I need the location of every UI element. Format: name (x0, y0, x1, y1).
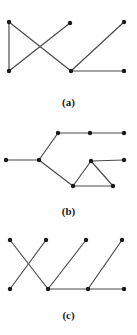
graph-vertex (122, 20, 126, 24)
graph-panel-b: (b) (0, 110, 137, 225)
graph-edge (71, 22, 124, 71)
graph-vertex (7, 69, 11, 73)
graph-vertex (122, 287, 126, 291)
graph-edge (88, 240, 122, 289)
panel-label-a: (a) (0, 96, 137, 108)
graph-vertex (122, 131, 126, 135)
graph-edge (91, 160, 124, 161)
graph-vertex (86, 287, 90, 291)
graph-drawing-c (0, 225, 137, 309)
graph-edge (39, 133, 58, 160)
graph-vertex (69, 69, 73, 73)
graph-vertex (111, 184, 115, 188)
graph-edge (9, 23, 70, 71)
graph-edge (48, 240, 86, 289)
graph-edge (39, 160, 73, 186)
graph-vertex (8, 287, 12, 291)
graph-edge (73, 161, 91, 186)
graph-vertex (8, 238, 12, 242)
panel-label-c: (c) (0, 309, 137, 321)
graph-vertex (68, 21, 72, 25)
graph-panel-a: (a) (0, 0, 137, 115)
graph-vertex (7, 20, 11, 24)
panel-label-b: (b) (0, 205, 137, 217)
graph-vertex (89, 159, 93, 163)
figure-stack: (a) (b) (c) (0, 0, 137, 335)
graph-vertex (44, 238, 48, 242)
graph-panel-c: (c) (0, 225, 137, 335)
graph-vertex (71, 184, 75, 188)
graph-drawing-b (0, 110, 137, 205)
graph-vertex (120, 238, 124, 242)
graph-vertex (46, 287, 50, 291)
graph-vertex (122, 69, 126, 73)
graph-vertex (4, 158, 8, 162)
graph-vertex (37, 158, 41, 162)
graph-vertex (84, 238, 88, 242)
graph-edge (91, 161, 113, 186)
graph-vertex (56, 131, 60, 135)
graph-vertex (88, 131, 92, 135)
graph-vertex (122, 158, 126, 162)
graph-drawing-a (0, 0, 137, 95)
